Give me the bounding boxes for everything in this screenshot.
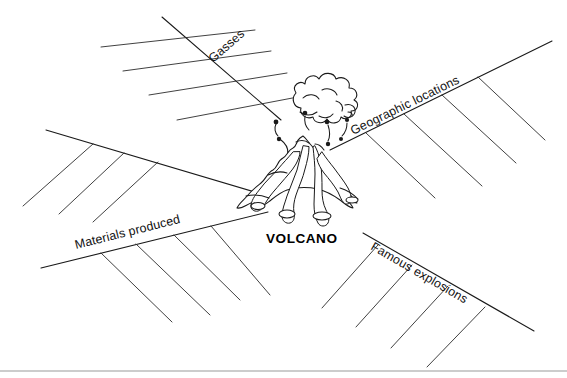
blank-line[interactable] [136, 244, 210, 315]
blank-line[interactable] [322, 245, 378, 308]
blank-line[interactable] [123, 51, 271, 71]
blank-lines-materials-produced [101, 226, 270, 322]
blank-line[interactable] [23, 144, 93, 206]
blank-line[interactable] [177, 96, 303, 120]
branch-spine-gasses [162, 17, 281, 120]
volcano-illustration [237, 73, 358, 226]
blank-line[interactable] [391, 286, 448, 348]
volcano-concept-map-worksheet: Gasses Geographic locations Materials pr… [0, 0, 567, 378]
blank-line[interactable] [404, 114, 482, 186]
blank-line[interactable] [356, 265, 412, 327]
blank-line[interactable] [442, 95, 516, 163]
blank-line[interactable] [59, 153, 124, 214]
blank-line[interactable] [427, 307, 485, 367]
blank-line[interactable] [211, 226, 270, 295]
blank-lines-gasses [101, 30, 303, 120]
blank-line[interactable] [366, 133, 435, 198]
blank-line[interactable] [101, 253, 172, 322]
blank-lines-left-crossbar [23, 144, 158, 222]
blank-line[interactable] [93, 162, 158, 222]
page-title: VOLCANO [266, 231, 337, 246]
branch-label-materials-produced: Materials produced [73, 212, 181, 252]
ash-cloud-icon [293, 73, 357, 123]
blank-lines-geographic-locations [366, 77, 545, 198]
blank-line[interactable] [478, 77, 545, 140]
blank-line[interactable] [149, 73, 287, 95]
branch-spine-geographic-locations [330, 41, 552, 150]
branch-labels: Gasses Geographic locations Materials pr… [73, 27, 470, 307]
diagram-canvas: Gasses Geographic locations Materials pr… [0, 0, 567, 378]
branch-label-gasses: Gasses [206, 27, 248, 66]
branch-label-geographic-locations: Geographic locations [348, 73, 461, 138]
